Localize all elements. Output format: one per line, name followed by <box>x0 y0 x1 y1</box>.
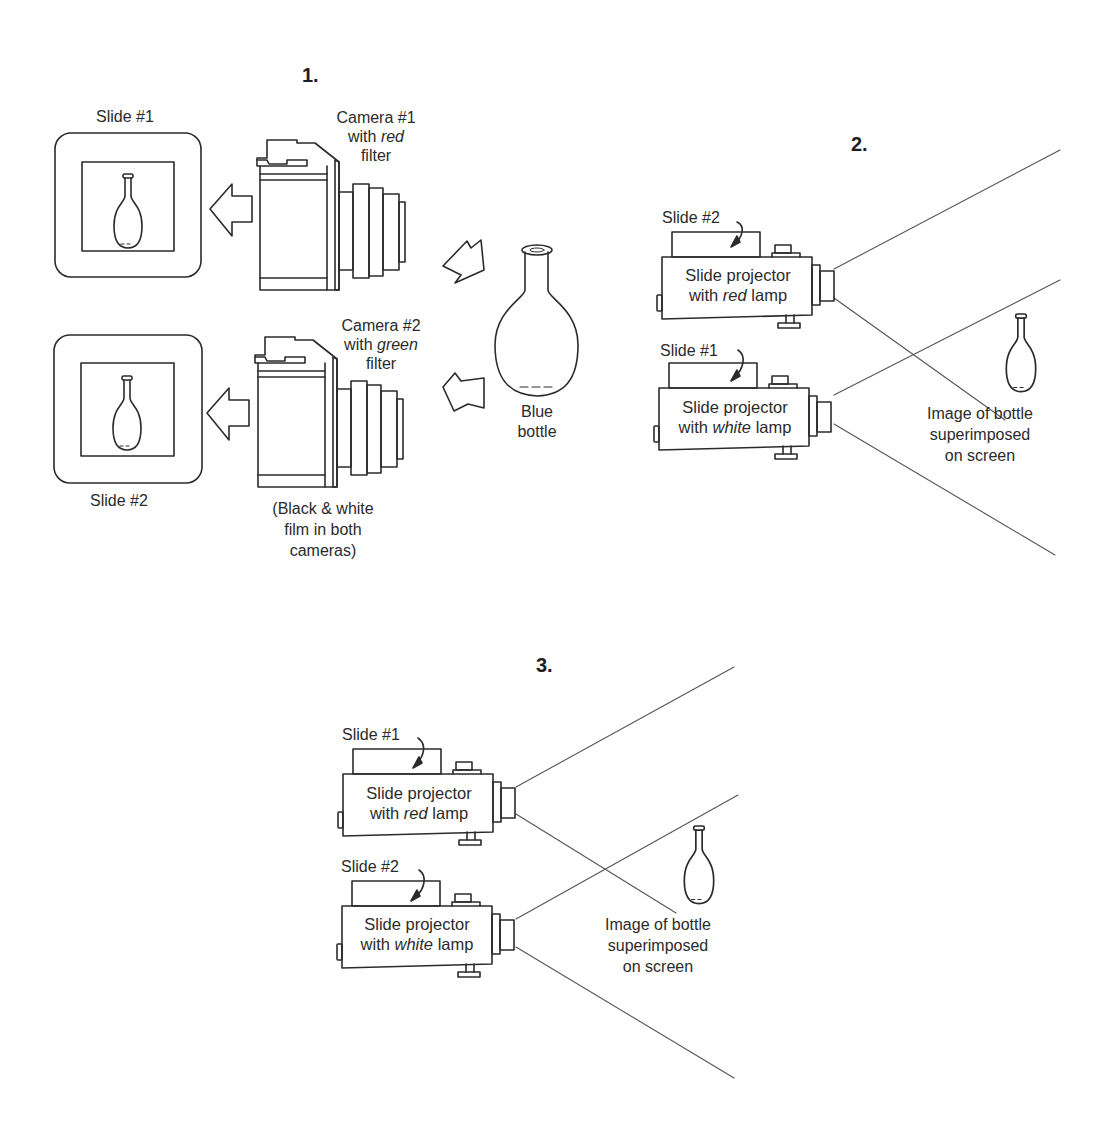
panel2-screen-caption: Image of bottle superimposed on screen <box>900 403 1060 466</box>
film-note-line1: (Black & white <box>258 498 388 519</box>
screen-bottle-2 <box>1006 314 1035 392</box>
panel2-top-projector-line1: Slide projector <box>665 265 811 285</box>
panel2-bottom-slide-label: Slide #1 <box>660 341 718 360</box>
panel2-bottom-projector-label: Slide projector with white lamp <box>661 397 809 437</box>
panel3-top-projector-line1: Slide projector <box>346 783 492 803</box>
panel3-top-projector-line2: with red lamp <box>346 803 492 823</box>
panel2-bottom-projector-line2: with white lamp <box>661 417 809 437</box>
arrow-camera2-to-slide2 <box>207 388 249 440</box>
blue-bottle-label: Blue bottle <box>507 402 567 442</box>
panel2-screen-caption-line2: superimposed <box>900 424 1060 445</box>
blue-bottle-label-line1: Blue <box>507 402 567 422</box>
panel3-beams <box>516 667 738 1078</box>
panel2-bottom-projector-line1: Slide projector <box>661 397 809 417</box>
panel2-top-projector-line2: with red lamp <box>665 285 811 305</box>
film-note-line2: film in both <box>258 519 388 540</box>
panel3-screen-caption-line2: superimposed <box>578 935 738 956</box>
panel3-screen-caption: Image of bottle superimposed on screen <box>578 914 738 977</box>
arrow-bottle-to-camera2 <box>443 373 484 411</box>
slide-1-frame <box>55 133 201 277</box>
arrow-camera1-to-slide1 <box>210 184 252 236</box>
camera-2-label-line3: filter <box>331 354 431 373</box>
panel2-screen-caption-line1: Image of bottle <box>900 403 1060 424</box>
camera-1-label-line3: filter <box>326 146 426 165</box>
panel2-top-slide-label: Slide #2 <box>662 208 720 227</box>
camera-2-label-line1: Camera #2 <box>331 316 431 335</box>
panel2-top-projector-label: Slide projector with red lamp <box>665 265 811 305</box>
panel3-screen-caption-line1: Image of bottle <box>578 914 738 935</box>
blue-bottle-label-line2: bottle <box>507 422 567 442</box>
panel3-bottom-projector-line2: with white lamp <box>343 934 491 954</box>
diagram-artwork <box>0 0 1114 1141</box>
panel3-bottom-projector-line1: Slide projector <box>343 914 491 934</box>
panel3-screen-caption-line3: on screen <box>578 956 738 977</box>
blue-bottle <box>495 245 578 396</box>
step-3-number: 3. <box>536 654 553 677</box>
camera-2-label: Camera #2 with green filter <box>331 316 431 373</box>
panel3-top-projector-label: Slide projector with red lamp <box>346 783 492 823</box>
panel3-bottom-projector-label: Slide projector with white lamp <box>343 914 491 954</box>
panel2-beams <box>834 150 1060 555</box>
camera-1-label-line2: with red <box>326 127 426 146</box>
slide-2-label: Slide #2 <box>90 491 148 510</box>
film-note-line3: cameras) <box>258 540 388 561</box>
film-note: (Black & white film in both cameras) <box>258 498 388 561</box>
screen-bottle-3 <box>684 826 713 904</box>
arrow-bottle-to-camera1 <box>443 240 484 283</box>
slide-1-label: Slide #1 <box>96 107 154 126</box>
slide-2-frame <box>54 335 202 483</box>
camera-2-label-line2: with green <box>331 335 431 354</box>
panel2-screen-caption-line3: on screen <box>900 445 1060 466</box>
panel3-top-slide-label: Slide #1 <box>342 725 400 744</box>
camera-1-label: Camera #1 with red filter <box>326 108 426 165</box>
step-1-number: 1. <box>302 64 319 87</box>
camera-1-label-line1: Camera #1 <box>326 108 426 127</box>
step-2-number: 2. <box>851 133 868 156</box>
panel3-bottom-slide-label: Slide #2 <box>341 857 399 876</box>
